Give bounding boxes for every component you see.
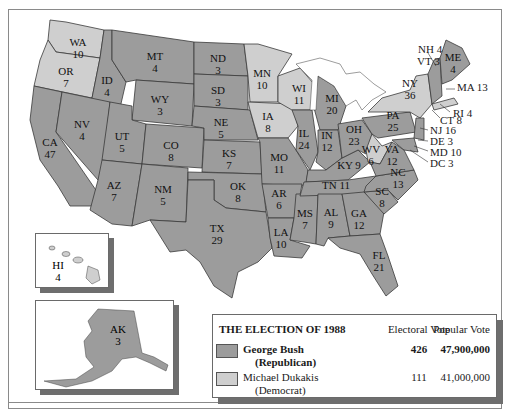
svg-text:7: 7 — [226, 159, 232, 171]
svg-text:VA: VA — [385, 143, 400, 155]
candidate-name: George Bush — [243, 343, 304, 355]
svg-text:AR: AR — [271, 187, 287, 199]
svg-text:NV: NV — [74, 118, 90, 130]
hawaii-inset: HI 4 — [35, 233, 109, 288]
svg-text:3: 3 — [215, 96, 221, 108]
svg-text:AK: AK — [110, 323, 126, 335]
svg-text:47: 47 — [45, 148, 57, 160]
svg-text:TX: TX — [210, 222, 225, 234]
hawaii-shape: HI 4 — [36, 234, 108, 287]
svg-text:AZ: AZ — [107, 179, 122, 191]
svg-text:12: 12 — [387, 155, 398, 167]
svg-text:UT: UT — [115, 130, 130, 142]
svg-text:ND: ND — [210, 52, 226, 64]
svg-text:KS: KS — [222, 147, 236, 159]
svg-text:NY: NY — [402, 77, 418, 89]
svg-text:NM: NM — [154, 183, 172, 195]
svg-text:25: 25 — [388, 121, 400, 133]
svg-text:20: 20 — [327, 104, 339, 116]
svg-text:OH: OH — [346, 123, 362, 135]
svg-text:23: 23 — [349, 135, 361, 147]
svg-text:IA: IA — [262, 110, 274, 122]
svg-text:10: 10 — [73, 48, 85, 60]
header-popular-vote: Popular Vote — [433, 323, 490, 335]
election-legend: THE ELECTION OF 1988 Electoral Vote Popu… — [212, 314, 497, 398]
svg-text:11: 11 — [274, 163, 285, 175]
svg-text:4: 4 — [79, 130, 85, 142]
svg-text:7: 7 — [302, 219, 308, 231]
state-nj — [414, 118, 424, 140]
svg-text:NE: NE — [214, 116, 229, 128]
svg-text:9: 9 — [328, 218, 334, 230]
svg-text:CA: CA — [42, 136, 57, 148]
svg-text:4: 4 — [55, 271, 61, 283]
svg-text:AL: AL — [324, 206, 339, 218]
svg-text:LA: LA — [274, 226, 289, 238]
svg-text:3: 3 — [157, 105, 163, 117]
democrat-swatch — [216, 372, 238, 386]
svg-text:ID: ID — [101, 74, 113, 86]
svg-text:3: 3 — [215, 64, 221, 76]
svg-text:21: 21 — [374, 261, 385, 273]
svg-text:OR: OR — [58, 65, 74, 77]
svg-text:HI: HI — [52, 259, 64, 271]
svg-text:NC: NC — [390, 166, 405, 178]
svg-text:PA: PA — [386, 109, 399, 121]
svg-text:MN: MN — [253, 67, 271, 79]
svg-text:MS: MS — [297, 207, 313, 219]
svg-text:OK: OK — [230, 180, 246, 192]
svg-text:8: 8 — [235, 192, 241, 204]
state-fl — [328, 234, 398, 296]
republican-swatch — [216, 344, 238, 358]
svg-text:12: 12 — [322, 141, 333, 153]
svg-text:TN 11: TN 11 — [322, 179, 350, 191]
alaska-shape: AK 3 — [36, 301, 173, 389]
svg-text:GA: GA — [351, 207, 367, 219]
svg-text:MO: MO — [270, 151, 288, 163]
svg-text:WY: WY — [151, 93, 169, 105]
candidate-party: (Republican) — [255, 356, 316, 368]
svg-text:24: 24 — [299, 139, 311, 151]
candidate-party: (Democrat) — [255, 384, 306, 396]
svg-text:WI: WI — [292, 82, 306, 94]
svg-text:MI: MI — [325, 92, 339, 104]
svg-text:6: 6 — [276, 199, 282, 211]
svg-text:4: 4 — [152, 62, 158, 74]
svg-text:SD: SD — [211, 84, 225, 96]
popular-vote: 47,900,000 — [441, 343, 491, 355]
legend-title: THE ELECTION OF 1988 — [219, 323, 345, 335]
svg-text:6: 6 — [368, 155, 374, 167]
svg-text:36: 36 — [405, 89, 417, 101]
svg-text:3: 3 — [115, 335, 121, 347]
svg-text:IL: IL — [299, 127, 310, 139]
svg-text:8: 8 — [265, 122, 271, 134]
svg-text:10: 10 — [257, 79, 269, 91]
svg-text:7: 7 — [111, 191, 117, 203]
svg-text:FL: FL — [373, 249, 386, 261]
alaska-inset: AK 3 — [35, 300, 174, 390]
svg-text:10: 10 — [276, 238, 288, 250]
popular-vote: 41,000,000 — [441, 371, 491, 383]
svg-text:5: 5 — [218, 128, 224, 140]
svg-text:ME: ME — [445, 51, 462, 63]
svg-text:8: 8 — [168, 151, 174, 163]
svg-text:MT: MT — [147, 50, 164, 62]
svg-text:5: 5 — [119, 142, 125, 154]
svg-text:8: 8 — [379, 197, 385, 209]
svg-text:4: 4 — [104, 86, 110, 98]
svg-text:13: 13 — [393, 178, 405, 190]
svg-text:5: 5 — [160, 195, 166, 207]
svg-text:IN: IN — [321, 129, 333, 141]
svg-text:CO: CO — [163, 139, 178, 151]
svg-text:29: 29 — [212, 234, 224, 246]
svg-text:WA: WA — [69, 36, 86, 48]
svg-text:7: 7 — [63, 77, 69, 89]
svg-text:4: 4 — [450, 63, 456, 75]
svg-text:KY 9: KY 9 — [337, 159, 361, 171]
svg-text:SC: SC — [375, 185, 388, 197]
svg-text:WV: WV — [362, 143, 380, 155]
svg-text:11: 11 — [294, 94, 305, 106]
candidate-name: Michael Dukakis — [243, 371, 318, 383]
svg-text:12: 12 — [354, 219, 365, 231]
